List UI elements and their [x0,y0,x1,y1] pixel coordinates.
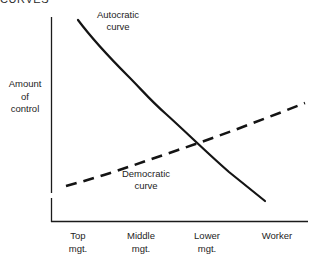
x-tick-label-worker-line-1: Worker [262,230,292,241]
figure-canvas: CURVES Amount of control Autocratic curv… [0,0,314,266]
x-tick-label-lower-mgt-line-1: Lower [194,230,220,241]
x-tick-label-lower-mgt: Lower mgt. [176,230,238,255]
x-tick-label-lower-mgt-line-2: mgt. [176,243,238,256]
x-tick-label-middle-mgt-line-2: mgt. [110,243,172,256]
x-tick-label-middle-mgt-line-1: Middle [127,230,155,241]
x-tick-label-top-mgt-line-2: mgt. [47,243,109,256]
x-tick-label-top-mgt-line-1: Top [70,230,85,241]
x-tick-label-top-mgt: Top mgt. [47,230,109,255]
plot-area [0,0,314,266]
x-tick-label-worker: Worker [246,230,308,243]
autocratic-curve-label: Autocratic curve [82,9,154,33]
democratic-curve-label-line-2: curve [134,180,157,191]
x-tick-label-middle-mgt: Middle mgt. [110,230,172,255]
democratic-curve-label-line-1: Democratic [122,168,170,179]
autocratic-curve-label-line-1: Autocratic [97,9,139,20]
democratic-curve-label: Democratic curve [106,168,186,192]
autocratic-curve-label-line-2: curve [106,21,129,32]
